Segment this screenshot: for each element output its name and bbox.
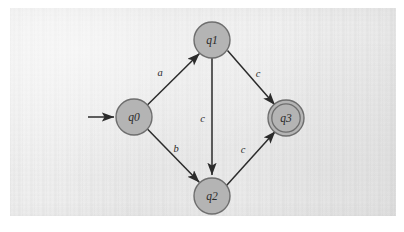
state-label-q1: q1 xyxy=(206,34,218,47)
edge-label-a: a xyxy=(157,67,162,78)
edge-label-c-q1-q3: c xyxy=(256,68,261,79)
automaton-diagram: a b c c c q0 q1 xyxy=(0,0,404,232)
state-label-q3: q3 xyxy=(280,112,292,125)
edge-label-b: b xyxy=(173,143,178,154)
state-node-q1[interactable]: q1 xyxy=(194,22,230,58)
transition-q1-q3: c xyxy=(228,51,275,105)
state-label-q2: q2 xyxy=(206,190,218,203)
edge-label-c-q1-q2: c xyxy=(200,113,205,124)
transition-q0-q1: a xyxy=(147,54,199,106)
state-node-q0[interactable]: q0 xyxy=(116,99,152,135)
transition-q1-q2: c xyxy=(200,58,212,175)
state-label-q0: q0 xyxy=(128,111,140,124)
transition-q2-q3: c xyxy=(227,132,276,186)
edge-label-c-q2-q3: c xyxy=(241,144,246,155)
state-node-q3[interactable]: q3 xyxy=(268,100,304,136)
transition-q0-q2: b xyxy=(147,129,199,182)
state-node-q2[interactable]: q2 xyxy=(194,178,230,214)
diagram-canvas: a b c c c q0 q1 xyxy=(0,0,404,232)
